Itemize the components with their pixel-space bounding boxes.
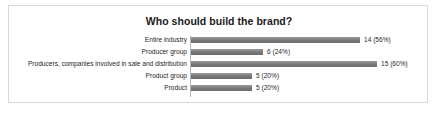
- bar-fill[interactable]: [191, 85, 252, 91]
- bar-row: Entire industry 14 (56%): [9, 34, 429, 45]
- bar-fill[interactable]: [191, 49, 263, 55]
- bar-fill[interactable]: [191, 61, 377, 67]
- plot-area: Entire industry 14 (56%) Producer group …: [9, 34, 429, 100]
- chart-frame: Who should build the brand? Entire indus…: [8, 5, 428, 103]
- bar-fill[interactable]: [191, 73, 252, 79]
- bar-category-label: Product: [10, 82, 190, 93]
- bar-row: Product 5 (20%): [9, 82, 429, 93]
- bar-row: Producers, companies involved in sale an…: [9, 58, 429, 69]
- bar-category-label: Product group: [10, 70, 190, 81]
- bar-fill[interactable]: [191, 37, 360, 43]
- bar-data-label: 5 (20%): [256, 70, 279, 81]
- bar-row: Product group 5 (20%): [9, 70, 429, 81]
- bar-category-label: Producer group: [10, 46, 190, 57]
- bar-row: Producer group 6 (24%): [9, 46, 429, 57]
- bar-data-label: 5 (20%): [256, 82, 279, 93]
- bar-data-label: 6 (24%): [267, 46, 290, 57]
- bar-data-label: 15 (60%): [381, 58, 408, 69]
- bar-category-label: Entire industry: [10, 34, 190, 45]
- chart-title: Who should build the brand?: [9, 15, 429, 27]
- bar-category-label: Producers, companies involved in sale an…: [10, 58, 190, 69]
- bar-data-label: 14 (56%): [364, 34, 391, 45]
